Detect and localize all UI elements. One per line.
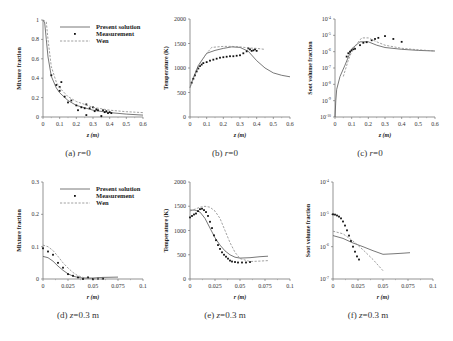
svg-text:Measurement: Measurement xyxy=(96,30,135,37)
y-axis-label: Mixture fraction xyxy=(16,208,22,251)
measurement-point xyxy=(349,51,351,53)
tick-label: 10-9 xyxy=(322,97,331,104)
measurement-point xyxy=(84,107,86,109)
measurement-point xyxy=(245,262,247,264)
wen-curve xyxy=(343,38,435,77)
tick-label: 10-8 xyxy=(322,81,331,88)
measurement-point xyxy=(384,35,386,37)
measurement-point xyxy=(212,59,214,61)
measurement-point xyxy=(205,211,207,213)
measurement-point xyxy=(70,100,72,102)
tick-label: 0 xyxy=(36,114,39,120)
y-axis-label: Temperature (K) xyxy=(163,46,170,90)
measurement-point xyxy=(350,240,352,242)
measurement-point xyxy=(102,109,104,111)
measurement-point xyxy=(80,106,82,108)
measurement-point xyxy=(352,246,354,248)
tick-label: 1500 xyxy=(174,41,186,47)
tick-label: 10-6 xyxy=(320,243,329,250)
measurement-point xyxy=(191,215,193,217)
measurement-point xyxy=(105,110,107,112)
measurement-point xyxy=(227,258,229,260)
measurement-point xyxy=(231,261,233,263)
x-axis-label: r (m) xyxy=(87,294,100,301)
measurement-point xyxy=(359,44,361,46)
tick-label: 0.2 xyxy=(73,121,81,127)
panel-caption: (f) z=0.3 m xyxy=(348,310,388,320)
measurement-point xyxy=(211,227,213,229)
tick-label: 0.1 xyxy=(348,121,356,127)
tick-label: 10-4 xyxy=(320,179,329,186)
measurement-point xyxy=(189,217,191,219)
tick-label: 0.025 xyxy=(351,283,365,289)
measurement-point xyxy=(219,57,221,59)
tick-label: 10-6 xyxy=(322,48,331,55)
measurement-point xyxy=(356,255,358,257)
measurement-point xyxy=(336,215,338,217)
measurement-point xyxy=(57,262,59,264)
panel-caption: (d) z=0.3 m xyxy=(57,310,99,320)
tick-label: 0 xyxy=(42,283,45,289)
x-axis-label: z (m) xyxy=(233,132,247,139)
measurement-point xyxy=(354,251,356,253)
tick-label: 0.6 xyxy=(431,121,439,127)
measurement-point xyxy=(206,61,208,63)
measurement-point xyxy=(207,215,209,217)
measurement-point xyxy=(340,217,342,219)
measurement-point xyxy=(100,115,102,117)
measurement-point xyxy=(59,90,61,92)
measurement-point xyxy=(62,267,64,269)
measurement-point xyxy=(95,108,97,110)
tick-label: 1500 xyxy=(174,203,186,209)
chart-panel-a: 00.10.20.30.40.50.600.20.40.60.81z (m)Mi… xyxy=(16,17,147,158)
measurement-point xyxy=(64,96,66,98)
chart-panel-f: 00.0250.050.0750.110-710-610-510-4r (m)S… xyxy=(305,179,437,321)
tick-label: 0.5 xyxy=(270,121,278,127)
measurement-point xyxy=(195,213,197,215)
figure-canvas: 00.10.20.30.40.50.600.20.40.60.81z (m)Mi… xyxy=(0,0,453,341)
measurement-point xyxy=(110,112,112,114)
measurement-point xyxy=(362,42,364,44)
measurement-point xyxy=(85,114,87,116)
tick-label: 0.2 xyxy=(32,95,40,101)
measurement-point xyxy=(229,55,231,57)
panel-caption: (c) r=0 xyxy=(357,148,383,158)
measurement-point xyxy=(89,107,91,109)
measurement-point xyxy=(234,261,236,263)
present-solution-curve xyxy=(335,42,435,117)
legend: Present solutionMeasurementWen xyxy=(60,23,141,44)
y-axis-label: Soot volume fraction xyxy=(307,41,313,95)
tick-label: 0 xyxy=(183,276,186,282)
y-axis-label: Temperature (K) xyxy=(163,209,170,253)
x-axis-label: r (m) xyxy=(377,294,390,301)
tick-label: 0.1 xyxy=(32,244,40,250)
measurement-point xyxy=(338,216,340,218)
measurement-point xyxy=(239,54,241,56)
tick-label: 0.2 xyxy=(32,211,40,217)
tick-label: 1000 xyxy=(174,228,186,234)
svg-text:Wen: Wen xyxy=(96,37,109,44)
tick-label: 0.1 xyxy=(139,283,147,289)
tick-label: 0.3 xyxy=(32,179,40,185)
measurement-point xyxy=(236,55,238,57)
measurement-point xyxy=(215,239,217,241)
tick-label: 0.1 xyxy=(429,283,437,289)
tick-label: 0.025 xyxy=(61,283,75,289)
measurement-point xyxy=(50,74,52,76)
tick-label: 10-7 xyxy=(322,65,331,72)
present-solution-curve xyxy=(43,256,118,278)
measurement-point xyxy=(225,256,227,258)
measurement-point xyxy=(342,221,344,223)
tick-label: 0.075 xyxy=(258,283,272,289)
tick-label: 0.1 xyxy=(203,121,211,127)
measurement-point xyxy=(109,111,111,113)
tick-label: 0 xyxy=(183,114,186,120)
chart-panel-d: 00.0250.050.0750.100.10.20.3r (m)Mixture… xyxy=(16,179,147,320)
tick-label: 0.4 xyxy=(398,121,406,127)
measurement-point xyxy=(213,234,215,236)
measurement-point xyxy=(202,62,204,64)
measurement-point xyxy=(55,84,57,86)
measurement-point xyxy=(77,109,79,111)
measurement-point xyxy=(256,50,258,52)
tick-label: 1 xyxy=(36,17,39,23)
